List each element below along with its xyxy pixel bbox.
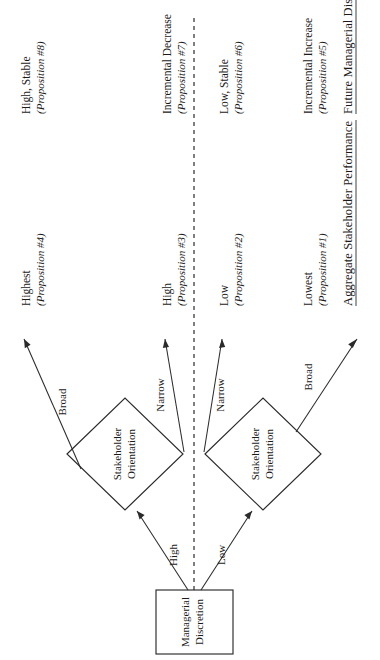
managerial-discretion-label-line1: Managerial [179,597,191,647]
outcome-performance-proposition-p1: (Proposition #1) [316,233,329,306]
column-header-future-managerial-discretion-label: Future Managerial Discretion [341,0,355,114]
edge-low-broad: Broad [296,339,357,432]
outcome-discretion-proposition-p5: (Proposition #5) [316,41,329,114]
edge-root-to-high-line [137,511,188,590]
node-stakeholder-orientation-low: Stakeholder Orientation [205,398,321,510]
outcome-discretion-value-p6: Low, Stable [218,59,231,114]
edge-low-narrow: Narrow [204,339,226,452]
stakeholder-orientation-high-label-line1: Stakeholder [111,427,123,480]
outcome-row-p1-p5: Lowest (Proposition #1) Incremental Incr… [302,18,329,306]
edge-root-to-high-branch: High [137,511,188,590]
edge-low-broad-arrowhead [348,339,357,348]
column-header-aggregate-stakeholder-performance: Aggregate Stakeholder Performance [341,120,356,306]
column-header-future-managerial-discretion: Future Managerial Discretion [341,0,356,114]
outcome-performance-value-p2: Low [218,284,230,306]
edge-root-to-high-arrowhead [137,511,145,520]
outcome-row-p2-p6: Low (Proposition #2) Low, Stable (Propos… [218,41,245,306]
outcome-performance-value-p4: Highest [20,269,33,306]
edge-label-low-narrow: Narrow [214,378,226,412]
edge-high-broad: Broad [24,339,81,469]
outcome-discretion-proposition-p7: (Proposition #7) [175,41,188,114]
outcome-discretion-proposition-p8: (Proposition #8) [34,41,47,114]
stakeholder-orientation-low-label-line2: Orientation [263,428,275,479]
edge-label-low-broad: Broad [302,363,314,390]
edge-high-broad-line [24,339,81,469]
column-header-aggregate-stakeholder-performance-label: Aggregate Stakeholder Performance [341,120,355,306]
outcome-discretion-value-p5: Incremental Increase [302,18,314,114]
outcome-performance-proposition-p4: (Proposition #4) [34,233,47,306]
outcome-discretion-proposition-p6: (Proposition #6) [232,41,245,114]
edge-high-narrow: Narrow [154,339,184,452]
concept-model-diagram: Managerial Discretion High Low Stakehold… [0,0,380,660]
edge-label-high-broad: Broad [56,388,68,415]
edge-root-to-low-arrowhead [244,511,252,520]
edge-high-narrow-line [165,339,184,452]
edge-label-high-narrow: Narrow [154,378,166,412]
edge-label-low: Low [215,545,227,565]
outcome-discretion-value-p8: High, Stable [20,57,33,115]
managerial-discretion-label-line2: Discretion [193,599,205,645]
edge-label-high: High [167,544,179,567]
node-stakeholder-orientation-high: Stakeholder Orientation [67,398,183,510]
figure-canvas: Managerial Discretion High Low Stakehold… [0,0,380,660]
outcome-performance-proposition-p2: (Proposition #2) [232,233,245,306]
outcome-discretion-value-p7: Incremental Decrease [161,14,173,114]
edge-high-narrow-arrowhead [163,339,169,348]
outcome-performance-value-p3: High [161,283,174,306]
outcome-row-p3-p7: High (Proposition #3) Incremental Decrea… [161,14,188,306]
edge-root-to-low-branch: Low [201,511,252,590]
figure-stage: Managerial Discretion High Low Stakehold… [0,0,380,660]
node-managerial-discretion: Managerial Discretion [156,590,233,654]
stakeholder-orientation-high-label-line2: Orientation [125,428,137,479]
stakeholder-orientation-low-label-line1: Stakeholder [249,427,261,480]
edge-low-narrow-arrowhead [219,339,225,348]
outcome-performance-proposition-p3: (Proposition #3) [175,233,188,306]
outcome-performance-value-p1: Lowest [302,271,314,306]
outcome-row-p4-p8: Highest (Proposition #4) High, Stable (P… [20,41,47,306]
